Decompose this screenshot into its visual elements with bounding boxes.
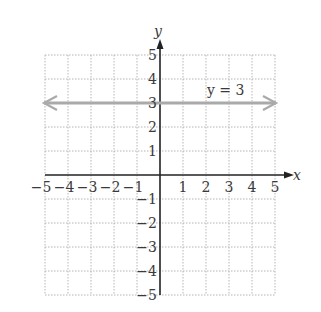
y-tick-label: −3	[136, 239, 157, 255]
axes	[45, 39, 294, 295]
y-tick-label: −2	[136, 215, 157, 231]
y-tick-label: 2	[148, 119, 157, 135]
x-tick-label: 4	[248, 179, 257, 195]
y-tick-label: −4	[136, 263, 157, 279]
x-tick-label: −2	[100, 179, 121, 195]
graph-svg: −5−4−3−2−11234554321−1−2−3−4−5 x y y = 3	[0, 0, 321, 312]
x-tick-label: 5	[271, 179, 280, 195]
line-equation-label: y = 3	[206, 82, 244, 98]
y-axis-arrow-icon	[157, 39, 164, 49]
y-tick-label: 5	[148, 47, 157, 63]
y-tick-label: −1	[136, 191, 157, 207]
coordinate-plane: −5−4−3−2−11234554321−1−2−3−4−5 x y y = 3	[0, 0, 321, 312]
x-tick-label: −5	[31, 179, 52, 195]
y-tick-label: 1	[148, 143, 157, 159]
x-tick-label: 3	[225, 179, 234, 195]
y-tick-label: 4	[148, 71, 157, 87]
x-tick-label: −3	[77, 179, 98, 195]
y-axis-label: y	[153, 23, 163, 39]
y-tick-label: −5	[136, 287, 157, 303]
y-tick-label: 3	[148, 95, 157, 111]
x-tick-label: 1	[179, 179, 188, 195]
x-tick-label: 2	[202, 179, 211, 195]
x-tick-label: −4	[54, 179, 75, 195]
x-axis-label: x	[293, 167, 301, 183]
